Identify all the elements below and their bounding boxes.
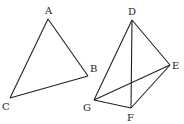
edge-gf	[94, 100, 131, 108]
vertex-label-e: E	[172, 60, 179, 71]
edge-df	[131, 20, 132, 108]
geometry-diagram: ABC DEFG	[0, 0, 184, 124]
edge-ca	[10, 19, 48, 98]
vertex-label-c: C	[2, 101, 10, 112]
vertex-label-g: G	[83, 102, 91, 113]
edge-dg	[94, 20, 132, 100]
vertex-label-f: F	[127, 112, 134, 123]
edge-de	[132, 20, 170, 65]
edge-eg	[94, 65, 170, 100]
edge-bc	[10, 76, 88, 98]
tetrahedron-defg: DEFG	[83, 6, 179, 123]
vertex-label-b: B	[90, 63, 97, 74]
edge-ef	[131, 65, 170, 108]
edge-ab	[48, 19, 88, 76]
triangle-abc: ABC	[2, 5, 97, 112]
vertex-label-d: D	[128, 6, 136, 17]
vertex-label-a: A	[44, 5, 53, 16]
